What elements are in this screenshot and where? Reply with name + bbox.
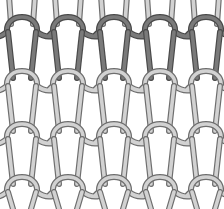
- yarn-leg: [146, 192, 151, 209]
- yarn-leg: [54, 192, 59, 209]
- yarn-leg: [215, 192, 220, 209]
- yarn-leg: [77, 192, 82, 209]
- knit-diagram: [0, 0, 224, 209]
- yarn-leg: [100, 192, 105, 209]
- knit-loop-structure: [0, 0, 224, 209]
- yarn-leg: [31, 192, 36, 209]
- yarn-leg: [8, 192, 13, 209]
- yarn-leg: [192, 192, 197, 209]
- yarn-leg: [123, 192, 128, 209]
- yarn-leg: [169, 192, 174, 209]
